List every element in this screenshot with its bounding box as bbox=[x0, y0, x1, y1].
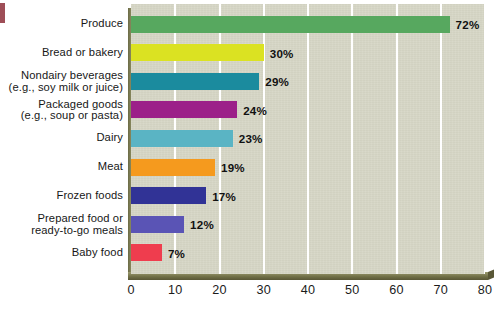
x-axis-tick-label: 30 bbox=[257, 283, 271, 297]
bar-value-label: 19% bbox=[221, 161, 245, 174]
bar-value-label: 17% bbox=[212, 189, 236, 202]
bar-value-label: 29% bbox=[265, 75, 289, 88]
category-label: Nondairy beverages (e.g., soy milk or ju… bbox=[9, 70, 123, 93]
x-axis-tick-label: 60 bbox=[389, 283, 403, 297]
bar bbox=[131, 244, 162, 261]
bar bbox=[131, 159, 215, 176]
category-label: Dairy bbox=[96, 133, 123, 144]
bar-value-label: 12% bbox=[190, 218, 214, 231]
bar bbox=[131, 16, 450, 33]
bar bbox=[131, 187, 206, 204]
x-axis-tick-label: 40 bbox=[301, 283, 315, 297]
x-axis-tick-label: 50 bbox=[345, 283, 359, 297]
bar bbox=[131, 130, 233, 147]
category-label: Prepared food or ready-to-go meals bbox=[31, 213, 123, 236]
bar-value-label: 30% bbox=[270, 46, 294, 59]
x-axis-tick-label: 10 bbox=[168, 283, 182, 297]
gridline bbox=[307, 4, 309, 274]
bar-value-label: 7% bbox=[168, 246, 185, 259]
category-label: Meat bbox=[98, 161, 123, 172]
bar bbox=[131, 101, 237, 118]
gridline bbox=[351, 4, 353, 274]
bar bbox=[131, 73, 259, 90]
bar-value-label: 72% bbox=[456, 18, 480, 31]
x-axis-tick-label: 70 bbox=[434, 283, 448, 297]
category-label: Frozen foods bbox=[57, 190, 124, 201]
category-label: Baby food bbox=[72, 247, 123, 258]
gridline bbox=[440, 4, 442, 274]
category-label: Bread or bakery bbox=[42, 47, 123, 58]
bar bbox=[131, 216, 184, 233]
category-label: Produce bbox=[81, 18, 123, 29]
category-axis: ProduceBread or bakeryNondairy beverages… bbox=[0, 8, 126, 276]
x-axis-tick-label: 20 bbox=[212, 283, 226, 297]
value-axis: 01020304050607080 bbox=[0, 283, 498, 305]
bar bbox=[131, 44, 264, 61]
gridline bbox=[484, 4, 485, 274]
gridline bbox=[396, 4, 398, 274]
plot-area: 72%30%29%24%23%19%17%12%7% bbox=[131, 4, 485, 274]
x-axis-tick-label: 0 bbox=[127, 283, 134, 297]
x-axis-tick-label: 80 bbox=[478, 283, 492, 297]
bar-value-label: 23% bbox=[239, 132, 263, 145]
category-label: Packaged goods (e.g., soup or pasta) bbox=[21, 98, 123, 121]
horizontal-bar-chart: ProduceBread or bakeryNondairy beverages… bbox=[0, 0, 498, 311]
bar-value-label: 24% bbox=[243, 103, 267, 116]
